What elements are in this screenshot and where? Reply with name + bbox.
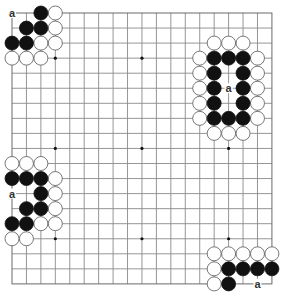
white-stone [5,51,19,65]
white-stone [5,157,19,171]
white-stone [222,247,236,261]
black-stone [34,6,48,20]
black-stone [5,36,19,50]
star-point [140,57,143,60]
white-stone [34,36,48,50]
star-point [227,147,230,150]
white-stone [48,187,62,201]
white-stone [207,126,221,140]
white-stone [236,126,250,140]
white-stone [236,247,250,261]
black-stone [236,66,250,80]
white-stone [222,36,236,50]
black-stone [222,262,236,276]
black-stone [207,51,221,65]
white-stone [250,111,264,125]
black-stone [207,66,221,80]
point-label: a [9,188,16,200]
star-point [140,147,143,150]
white-stone [193,51,207,65]
black-stone [222,111,236,125]
star-point [140,237,143,240]
black-stone [19,217,33,231]
black-stone [265,262,279,276]
white-stone [207,36,221,50]
black-stone [207,96,221,110]
white-stone [48,36,62,50]
black-stone [222,51,236,65]
white-stone [250,66,264,80]
black-stone [236,262,250,276]
white-stone [250,81,264,95]
white-stone [48,172,62,186]
black-stone [207,81,221,95]
black-stone [250,262,264,276]
black-stone [5,217,19,231]
black-stone [236,111,250,125]
black-stone [34,172,48,186]
white-stone [48,217,62,231]
white-stone [34,51,48,65]
white-stone [222,126,236,140]
black-stone [236,81,250,95]
white-stone [193,66,207,80]
white-stone [34,217,48,231]
point-label: a [226,82,233,94]
white-stone [207,277,221,291]
white-stone [19,51,33,65]
white-stone [34,157,48,171]
black-stone [222,277,236,291]
white-stone [236,36,250,50]
white-stone [265,247,279,261]
black-stone [19,172,33,186]
white-stone [19,157,33,171]
point-label: a [9,7,16,19]
star-point [227,237,230,240]
black-stone [236,96,250,110]
black-stone [34,187,48,201]
black-stone [5,172,19,186]
white-stone [250,51,264,65]
black-stone [207,111,221,125]
black-stone [19,202,33,216]
white-stone [250,247,264,261]
star-point [54,57,57,60]
white-stone [5,232,19,246]
white-stone [207,247,221,261]
white-stone [193,96,207,110]
point-label: a [254,278,261,290]
black-stone [34,202,48,216]
black-stone [19,36,33,50]
white-stone [193,111,207,125]
white-stone [207,262,221,276]
black-stone [236,51,250,65]
go-board: aaaa [0,0,285,294]
star-point [54,147,57,150]
star-point [54,237,57,240]
black-stone [19,21,33,35]
white-stone [193,81,207,95]
white-stone [19,232,33,246]
white-stone [48,202,62,216]
white-stone [250,96,264,110]
white-stone [48,21,62,35]
black-stone [34,21,48,35]
white-stone [48,6,62,20]
